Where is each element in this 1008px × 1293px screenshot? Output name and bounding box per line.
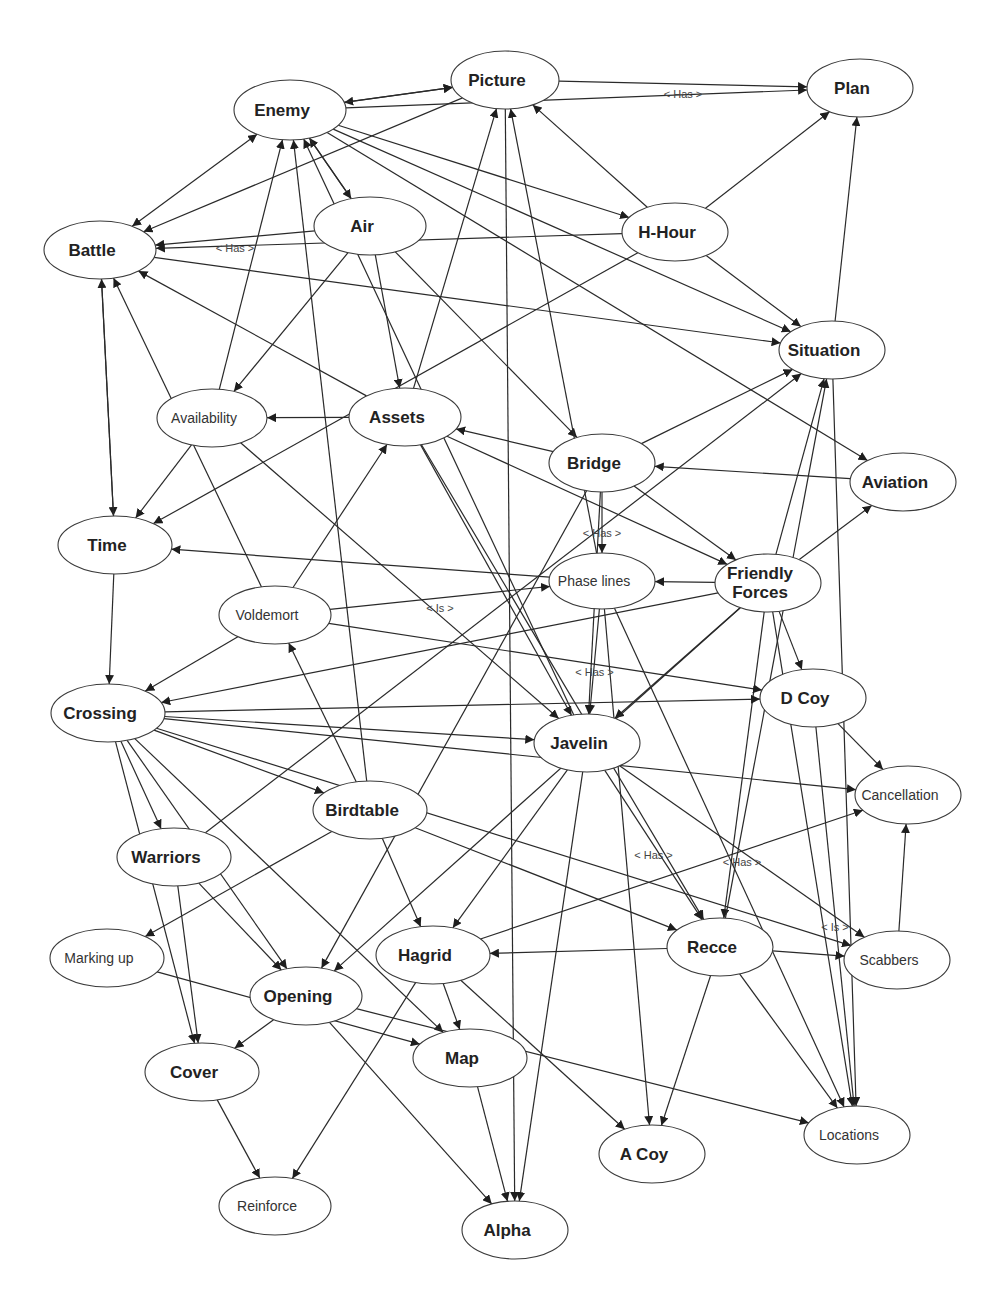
edge-phase-lines-to-a-coy — [604, 609, 649, 1125]
edge-voldemort-to-crossing — [145, 637, 238, 691]
node-label: Situation — [788, 341, 861, 360]
edge-friendly-forces-to-recce — [724, 612, 764, 918]
edge-friendly-forces-to-phase-lines — [655, 582, 715, 583]
edge-label: < Is > — [821, 921, 849, 933]
node-label: Map — [445, 1049, 479, 1068]
edge-recce-to-scabbers — [773, 951, 845, 956]
node-label: Bridge — [567, 454, 621, 473]
node-crossing[interactable]: Crossing — [51, 684, 165, 742]
edge-scabbers-to-cancellation — [899, 824, 906, 931]
node-aviation[interactable]: Aviation — [850, 453, 956, 511]
node-label: Battle — [68, 241, 115, 260]
edge-enemy-to-picture — [344, 87, 453, 102]
node-label: Enemy — [254, 101, 310, 120]
node-label: Cover — [170, 1063, 219, 1082]
node-cancellation[interactable]: Cancellation — [855, 766, 961, 824]
node-situation[interactable]: Situation — [779, 321, 885, 379]
node-label: Picture — [468, 71, 526, 90]
edge-time-to-crossing — [109, 574, 114, 684]
edge-assets-to-picture — [414, 109, 497, 389]
node-voldemort[interactable]: Voldemort — [219, 586, 331, 644]
node-birdtable[interactable]: Birdtable — [313, 781, 427, 839]
edge-air-to-availability — [234, 253, 348, 392]
edge-aviation-to-bridge — [655, 466, 851, 478]
node-label: Air — [350, 217, 374, 236]
node-phase-lines[interactable]: Phase lines — [549, 553, 655, 609]
edge-bridge-to-friendly-forces — [634, 486, 736, 560]
node-h-hour[interactable]: H-Hour — [622, 203, 728, 261]
node-label: Forces — [732, 583, 788, 602]
edge-crossing-to-scabbers — [157, 728, 852, 945]
node-warriors[interactable]: Warriors — [117, 828, 231, 886]
node-label: Reinforce — [237, 1198, 297, 1214]
edge-label: < Is > — [426, 602, 454, 614]
node-hagrid[interactable]: Hagrid — [376, 926, 490, 984]
edge-time-to-battle — [102, 279, 114, 516]
edge-label: < Has > — [583, 527, 622, 539]
edge-javelin-to-alpha — [519, 772, 582, 1201]
edge-friendly-forces-to-d-coy — [779, 611, 802, 669]
node-label: Scabbers — [859, 952, 918, 968]
node-label: Hagrid — [398, 946, 452, 965]
edge-picture-to-plan — [559, 81, 807, 87]
node-battle[interactable]: Battle — [44, 221, 156, 279]
edge-recce-to-a-coy — [661, 976, 710, 1126]
edge-label: < Has > — [216, 242, 255, 254]
edge-label: < Has > — [664, 88, 703, 100]
edge-h-hour-to-plan — [706, 112, 830, 209]
node-plan[interactable]: Plan — [807, 59, 913, 117]
node-cover[interactable]: Cover — [145, 1043, 259, 1101]
edge-enemy-to-battle — [132, 134, 257, 226]
node-label: Alpha — [483, 1221, 531, 1240]
node-assets[interactable]: Assets — [349, 388, 461, 446]
node-availability[interactable]: Availability — [157, 389, 267, 447]
edge-hagrid-to-map — [443, 984, 460, 1030]
node-enemy[interactable]: Enemy — [234, 80, 346, 140]
node-bridge[interactable]: Bridge — [549, 434, 655, 492]
edge-availability-to-enemy — [219, 140, 282, 390]
node-recce[interactable]: Recce — [667, 918, 773, 976]
node-label: Javelin — [550, 734, 608, 753]
node-air[interactable]: Air — [314, 197, 426, 255]
edge-crossing-to-cover — [116, 742, 195, 1044]
node-label: A Coy — [620, 1145, 669, 1164]
edge-javelin-to-recce — [605, 770, 702, 919]
node-map[interactable]: Map — [413, 1029, 527, 1087]
edge-opening-to-cover — [235, 1020, 274, 1048]
node-label: Voldemort — [235, 607, 298, 623]
node-friendly-forces[interactable]: FriendlyForces — [715, 554, 821, 612]
node-label: Locations — [819, 1127, 879, 1143]
node-label: Warriors — [131, 848, 200, 867]
node-label: Phase lines — [558, 573, 630, 589]
node-time[interactable]: Time — [58, 516, 172, 574]
edge-cover-to-reinforce — [217, 1100, 260, 1178]
edge-recce-to-situation — [725, 379, 826, 918]
node-opening[interactable]: Opening — [250, 967, 362, 1025]
node-alpha[interactable]: Alpha — [462, 1201, 568, 1259]
node-d-coy[interactable]: D Coy — [760, 669, 866, 727]
node-reinforce[interactable]: Reinforce — [219, 1177, 331, 1235]
edge-voldemort-to-assets — [293, 445, 387, 588]
edge-bridge-to-assets — [456, 429, 553, 452]
concept-map: < Has >< Has >< Has >< Has >< Is >< Is >… — [0, 0, 1008, 1293]
edge-bridge-to-situation — [641, 369, 792, 443]
node-a-coy[interactable]: A Coy — [599, 1125, 705, 1183]
edge-birdtable-to-hagrid — [382, 838, 420, 926]
edge-air-to-assets — [375, 255, 399, 388]
edge-phase-lines-to-time — [171, 549, 549, 577]
node-marking-up[interactable]: Marking up — [50, 929, 164, 987]
node-label: Availability — [171, 410, 237, 426]
node-label: Friendly — [727, 564, 794, 583]
node-label: H-Hour — [638, 223, 696, 242]
node-label: Birdtable — [325, 801, 399, 820]
edge-label: < Has > — [575, 666, 614, 678]
node-javelin[interactable]: Javelin — [534, 714, 640, 772]
edge-situation-to-plan — [835, 117, 857, 321]
edge-labels-layer: < Has >< Has >< Has >< Has >< Is >< Is >… — [216, 88, 849, 933]
node-label: Recce — [687, 938, 737, 957]
node-label: Plan — [834, 79, 870, 98]
node-scabbers[interactable]: Scabbers — [844, 931, 950, 989]
node-picture[interactable]: Picture — [451, 51, 559, 109]
node-locations[interactable]: Locations — [804, 1106, 910, 1164]
edge-crossing-to-d-coy — [165, 699, 760, 712]
